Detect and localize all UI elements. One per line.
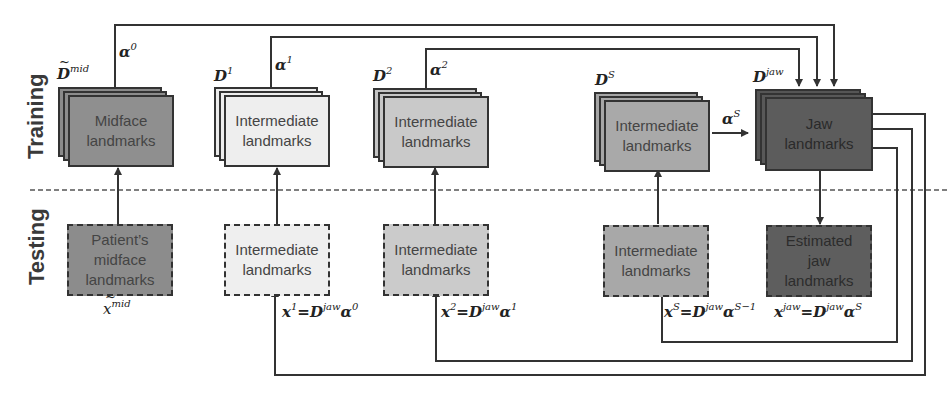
- dict-ds-symbol: DS: [595, 70, 615, 89]
- patient-midface-box: Patient’smidfacelandmarks: [67, 224, 173, 296]
- test-intermediate-2-box: Intermediatelandmarks: [383, 224, 489, 296]
- test-intermediate-1-box: Intermediatelandmarks: [224, 224, 330, 296]
- alpha1-label: α1: [275, 55, 293, 74]
- dict-d2-symbol: D2: [373, 66, 392, 85]
- estimated-jaw-box: Estimatedjawlandmarks: [766, 225, 872, 297]
- jaw-dictionary-stack: Jawlandmarks: [755, 89, 873, 171]
- alpha0-label: α0: [119, 42, 137, 61]
- ds-label: Intermediatelandmarks: [604, 100, 710, 172]
- dict-jaw-symbol: Djaw: [753, 67, 784, 86]
- formula-xjaw: xjaw=DjawαS: [774, 302, 862, 321]
- midface-dictionary-stack: Midfacelandmarks: [58, 87, 174, 167]
- dict-d1-symbol: D1: [214, 66, 233, 85]
- landmark-estimation-diagram: Training Testing Midfacelandmarks Dmid α…: [0, 0, 950, 395]
- d1-label: Intermediatelandmarks: [224, 95, 330, 167]
- x-mid-label: xmid: [103, 299, 131, 318]
- d2-dictionary-stack: Intermediatelandmarks: [373, 88, 489, 168]
- training-row-label: Training: [23, 99, 49, 159]
- testing-row-label: Testing: [24, 235, 50, 285]
- connector-lines: [0, 0, 950, 395]
- alpha1-connector: [271, 37, 817, 88]
- ds-dictionary-stack: Intermediatelandmarks: [594, 92, 710, 172]
- alphaS-label: αS: [722, 109, 740, 128]
- formula-x2: x2=Djawα1: [441, 302, 517, 321]
- alpha2-label: α2: [430, 60, 448, 79]
- midface-label: Midfacelandmarks: [68, 95, 174, 167]
- jaw-label: Jawlandmarks: [765, 97, 873, 171]
- dict-midface-symbol: Dmid: [57, 64, 89, 83]
- test-intermediate-s-box: Intermediatelandmarks: [603, 225, 709, 297]
- formula-x1: x1=Djawα0: [282, 302, 358, 321]
- d2-label: Intermediatelandmarks: [383, 96, 489, 168]
- formula-xS: xS=DjawαS−1: [664, 302, 756, 321]
- d1-dictionary-stack: Intermediatelandmarks: [214, 87, 330, 167]
